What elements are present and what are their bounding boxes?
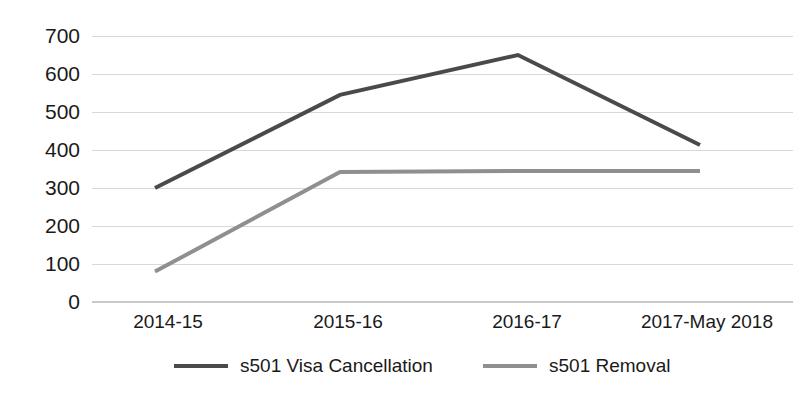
x-tick-2015-16: 2015-16 [313,311,383,332]
chart-plot-area: 700 600 500 400 300 200 100 0 2014-15 20… [0,0,801,394]
y-tick-0: 0 [68,290,80,313]
legend-label-s501-visa-cancellation: s501 Visa Cancellation [240,355,433,376]
y-tick-300: 300 [45,176,80,199]
line-chart: 700 600 500 400 300 200 100 0 2014-15 20… [0,0,801,394]
y-tick-600: 600 [45,62,80,85]
chart-canvas: 700 600 500 400 300 200 100 0 2014-15 20… [0,0,801,394]
y-axis-tick-labels: 700 600 500 400 300 200 100 0 [45,24,80,313]
x-tick-2014-15: 2014-15 [133,311,203,332]
y-tick-700: 700 [45,24,80,47]
y-tick-200: 200 [45,214,80,237]
x-tick-2016-17: 2016-17 [492,311,562,332]
y-tick-400: 400 [45,138,80,161]
legend-label-s501-removal: s501 Removal [549,355,670,376]
y-tick-500: 500 [45,100,80,123]
series-line-s501-removal [155,171,700,272]
x-axis-tick-labels: 2014-15 2015-16 2016-17 2017-May 2018 [133,311,773,332]
chart-legend: s501 Visa Cancellation s501 Removal [174,355,670,376]
y-tick-100: 100 [45,252,80,275]
series-lines [155,55,700,272]
series-line-s501-visa-cancellation [155,55,700,188]
x-tick-2017-may-2018: 2017-May 2018 [641,311,773,332]
